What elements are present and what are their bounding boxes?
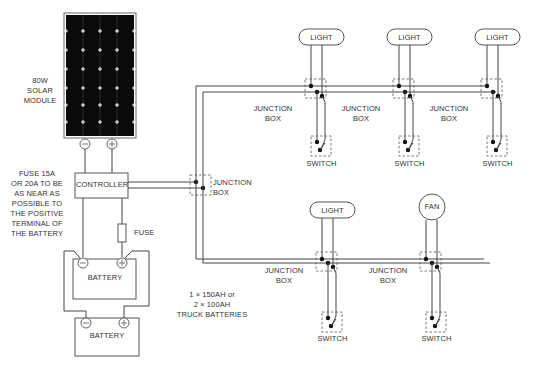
controller-label: CONTROLLER — [76, 180, 128, 190]
light-label: LIGHT — [299, 33, 344, 43]
switch-label: SWITCH — [387, 159, 432, 169]
switch-label: SWITCH — [299, 159, 344, 169]
solar-module-label: 80W SOLAR MODULE — [16, 76, 64, 106]
switch-box — [311, 136, 331, 156]
solar-module — [64, 13, 136, 138]
light-label: LIGHT — [387, 33, 432, 43]
junction-label: JUNCTION BOX — [363, 266, 413, 286]
junction-label: JUNCTION BOX — [259, 266, 309, 286]
junction-label: JUNCTION BOX — [424, 104, 474, 124]
battery-2-label: BATTERY — [76, 331, 138, 341]
main-junction-label: JUNCTION BOX — [213, 178, 253, 198]
junction-label: JUNCTION BOX — [336, 104, 386, 124]
fuse-note: FUSE 15A OR 20A TO BE AS NEAR AS POSSIBL… — [4, 169, 70, 239]
junction-label: JUNCTION BOX — [248, 104, 298, 124]
light-label: LIGHT — [310, 206, 355, 216]
fuse-symbol — [118, 224, 126, 242]
switch-label: SWITCH — [310, 334, 355, 344]
switch-box — [322, 312, 342, 332]
fan-label: FAN — [419, 202, 445, 212]
battery-note: 1 × 150AH or 2 × 100AH TRUCK BATTERIES — [176, 290, 248, 320]
switch-label: SWITCH — [414, 334, 459, 344]
main-junction-box — [190, 175, 211, 195]
switch-box — [487, 136, 507, 156]
fuse-label: FUSE — [134, 228, 160, 238]
switch-label: SWITCH — [475, 159, 520, 169]
switch-box — [426, 312, 446, 332]
battery-1-label: BATTERY — [74, 273, 136, 283]
switch-box — [399, 136, 419, 156]
lower-unit-0 — [310, 202, 355, 332]
light-label: LIGHT — [475, 33, 520, 43]
